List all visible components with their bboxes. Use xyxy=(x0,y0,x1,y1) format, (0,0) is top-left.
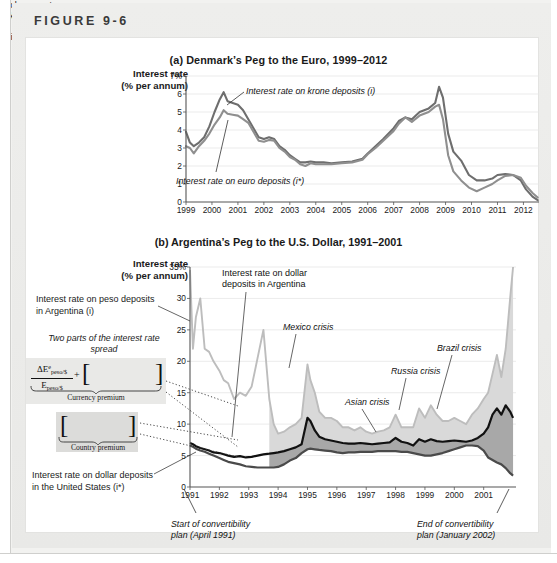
svg-text:1992: 1992 xyxy=(210,490,229,500)
conv-end-line1: End of convertibility xyxy=(417,519,547,530)
currency-premium-label: Currency premium xyxy=(30,393,162,402)
formula-bracket-left: [ xyxy=(82,360,90,385)
note-end-convertibility: End of convertibility plan (January 2002… xyxy=(417,519,547,542)
svg-text:1998: 1998 xyxy=(386,490,405,500)
svg-text:1999: 1999 xyxy=(416,490,435,500)
note-brazil-crisis: Brazil crisis xyxy=(437,343,481,353)
annotation-peso-deposits: Interest rate on peso deposits in Argent… xyxy=(36,294,162,317)
formula-numerator: ΔEepeso/$ xyxy=(31,362,73,377)
svg-text:15: 15 xyxy=(177,388,187,398)
figure-root: FIGURE 9-6 (a) Denmark’s Peg to the Euro… xyxy=(0,0,557,563)
formula-bracket-right: ] xyxy=(155,360,163,385)
default-bracket-right: ] xyxy=(128,412,136,437)
conv-start-line2: plan (April 1991) xyxy=(171,530,301,541)
annotation-us-dollar-deposits: Interest rate on dollar deposits in the … xyxy=(32,470,156,493)
conv-start-line1: Start of convertibility xyxy=(171,519,301,530)
panel-b-axes xyxy=(190,267,516,487)
conv-end-line2: plan (January 2002) xyxy=(417,530,547,541)
svg-text:25: 25 xyxy=(177,325,187,335)
svg-text:35%: 35% xyxy=(169,262,186,272)
annotation-two-parts-spread: Two parts of the interest rate spread xyxy=(46,333,162,355)
svg-text:1995: 1995 xyxy=(298,490,317,500)
note-dollar-deposits-argentina: Interest rate on dollar deposits in Arge… xyxy=(222,268,334,291)
svg-text:30: 30 xyxy=(177,293,187,303)
svg-text:20: 20 xyxy=(177,356,187,366)
svg-text:1993: 1993 xyxy=(239,490,258,500)
svg-text:1997: 1997 xyxy=(357,490,376,500)
formula-plus-sign: + xyxy=(74,369,80,380)
note-russia-crisis: Russia crisis xyxy=(391,366,440,376)
svg-text:2001: 2001 xyxy=(474,490,493,500)
svg-text:1991: 1991 xyxy=(181,490,200,500)
page-edge-bottom xyxy=(0,553,557,563)
default-bracket-left: [ xyxy=(60,412,68,437)
svg-text:1994: 1994 xyxy=(269,490,288,500)
note-asian-crisis: Asian crisis xyxy=(345,397,389,407)
svg-text:2000: 2000 xyxy=(445,490,464,500)
panel-b-x-ticks: 1991199219931994199519961997199819992000… xyxy=(181,487,494,500)
formula-fraction-bar xyxy=(31,378,73,379)
svg-text:1996: 1996 xyxy=(328,490,347,500)
svg-text:10: 10 xyxy=(177,419,187,429)
country-premium-label: Country premium xyxy=(58,443,138,452)
panel-b-y-ticks: 05101520253035% xyxy=(169,262,190,492)
note-dollar-line1: Interest rate on dollar xyxy=(222,268,334,279)
note-start-convertibility: Start of convertibility plan (April 1991… xyxy=(171,519,301,542)
note-dollar-line2: deposits in Argentina xyxy=(222,279,334,290)
note-mexico-crisis: Mexico crisis xyxy=(283,322,333,332)
